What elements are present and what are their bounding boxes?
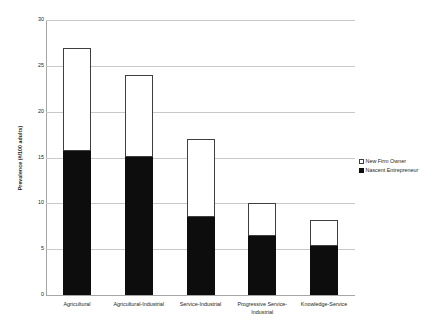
bar-segment-nascent-entrepreneur	[310, 246, 338, 295]
bar-segment-new-firm-owner	[187, 139, 215, 217]
y-axis-tick-label: 15	[30, 155, 44, 160]
y-axis-tick-labels: 051015202530	[28, 0, 44, 330]
x-axis-tick-label: Service-Industrial	[170, 301, 232, 309]
legend-label: New Firm Owner	[366, 159, 406, 164]
chart-legend: New Firm OwnerNascent Entrepreneur	[359, 159, 443, 177]
bar-segment-nascent-entrepreneur	[125, 157, 153, 295]
bar-stack	[248, 203, 276, 295]
gridline	[46, 112, 355, 113]
bar-stack	[63, 48, 91, 296]
stacked-bar-chart: Prevalence (#/100 adults) 051015202530 A…	[0, 0, 444, 330]
legend-entry: Nascent Entrepreneur	[359, 168, 443, 173]
x-axis-tick-label: Knowledge-Service	[293, 301, 355, 309]
bar-segment-new-firm-owner	[63, 48, 91, 152]
y-axis-tick-label: 10	[30, 201, 44, 206]
y-axis-tick-label: 0	[30, 292, 44, 297]
y-axis-tick-label: 5	[30, 246, 44, 251]
bar-segment-nascent-entrepreneur	[248, 236, 276, 295]
y-axis-tick-label: 25	[30, 63, 44, 68]
legend-entry: New Firm Owner	[359, 159, 443, 164]
y-axis-tick-label: 30	[30, 17, 44, 22]
bar-segment-nascent-entrepreneur	[63, 151, 91, 295]
y-axis-title-text: Prevalence (#/100 adults)	[17, 125, 23, 190]
x-axis-tick-label: Agricultural	[46, 301, 108, 309]
bar-stack	[125, 75, 153, 295]
bar-stack	[310, 220, 338, 295]
gridline	[46, 20, 355, 21]
bar-segment-new-firm-owner	[310, 220, 338, 247]
y-axis-tick-label: 20	[30, 109, 44, 114]
bar-segment-nascent-entrepreneur	[187, 217, 215, 295]
gridline	[46, 66, 355, 67]
legend-label: Nascent Entrepreneur	[366, 168, 419, 173]
bar-segment-new-firm-owner	[125, 75, 153, 157]
bar-segment-new-firm-owner	[248, 203, 276, 236]
x-axis-tick-label: Agricultural-Industrial	[108, 301, 170, 309]
filled-square-icon	[359, 168, 364, 173]
y-axis-title: Prevalence (#/100 adults)	[13, 20, 27, 295]
gridline	[46, 295, 355, 296]
open-square-icon	[359, 159, 364, 164]
x-axis-tick-label: Progressive Service-Industrial	[231, 301, 293, 317]
bar-stack	[187, 139, 215, 295]
plot-area	[46, 20, 355, 295]
